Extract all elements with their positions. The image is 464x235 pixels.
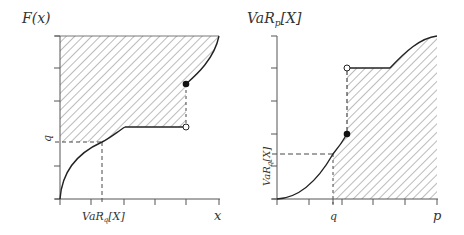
- left-hatched-area: [60, 36, 219, 142]
- diagram-canvas: F(x) x q VaRq[X]: [0, 0, 464, 235]
- left-plot: F(x) x q VaRq[X]: [21, 10, 222, 224]
- right-plot: VaRp[X] p q VaRq[X]: [247, 10, 442, 223]
- right-q-label: q: [330, 210, 337, 223]
- left-y-ticks: [54, 36, 60, 199]
- right-x-axis-label: p: [433, 208, 442, 223]
- right-var-label: VaRq[X]: [261, 147, 274, 186]
- right-x-ticks: [277, 199, 437, 205]
- left-x-axis-label: x: [214, 208, 222, 223]
- left-open-circle: [183, 124, 189, 130]
- left-x-ticks: [60, 199, 219, 205]
- left-q-label: q: [41, 135, 54, 142]
- right-filled-circle: [344, 131, 351, 138]
- left-y-axis-label: F(x): [21, 10, 51, 26]
- left-filled-circle: [183, 81, 190, 88]
- right-open-circle: [344, 65, 350, 71]
- right-hatched-area: [333, 36, 437, 199]
- right-y-axis-label: VaRp[X]: [247, 10, 302, 28]
- left-var-label: VaRq[X]: [82, 210, 125, 224]
